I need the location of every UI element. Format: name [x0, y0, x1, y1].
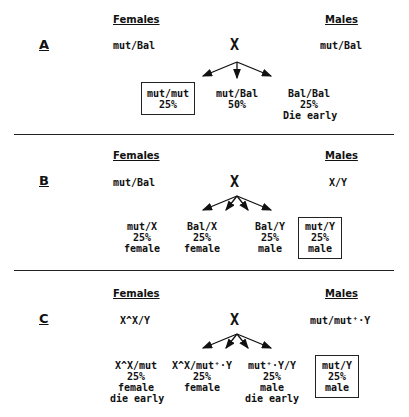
offspring-genotype: mut⁺·Y/Y [244, 360, 300, 371]
offspring-sex: female [170, 382, 234, 393]
offspring-genotype: X^X/mut⁺·Y [170, 360, 234, 371]
offspring-mutplus-y-y: mut⁺·Y/Y 25% male die early [244, 360, 300, 404]
offspring-note: die early [244, 393, 300, 404]
offspring-xx-mut: X^X/mut 25% female die early [110, 360, 162, 404]
offspring-percent: 25% [170, 371, 234, 382]
offspring-sex: male [244, 382, 300, 393]
offspring-note: die early [110, 393, 162, 404]
offspring-xx-mutplus-y: X^X/mut⁺·Y 25% female [170, 360, 234, 393]
offspring-percent: 25% [244, 371, 300, 382]
offspring-percent: 25% [315, 371, 359, 382]
offspring-mut-y: mut/Y 25% male [315, 360, 359, 393]
offspring-genotype: X^X/mut [110, 360, 162, 371]
offspring-sex: female [110, 382, 162, 393]
offspring-sex: male [315, 382, 359, 393]
offspring-percent: 25% [110, 371, 162, 382]
offspring-genotype: mut/Y [315, 360, 359, 371]
